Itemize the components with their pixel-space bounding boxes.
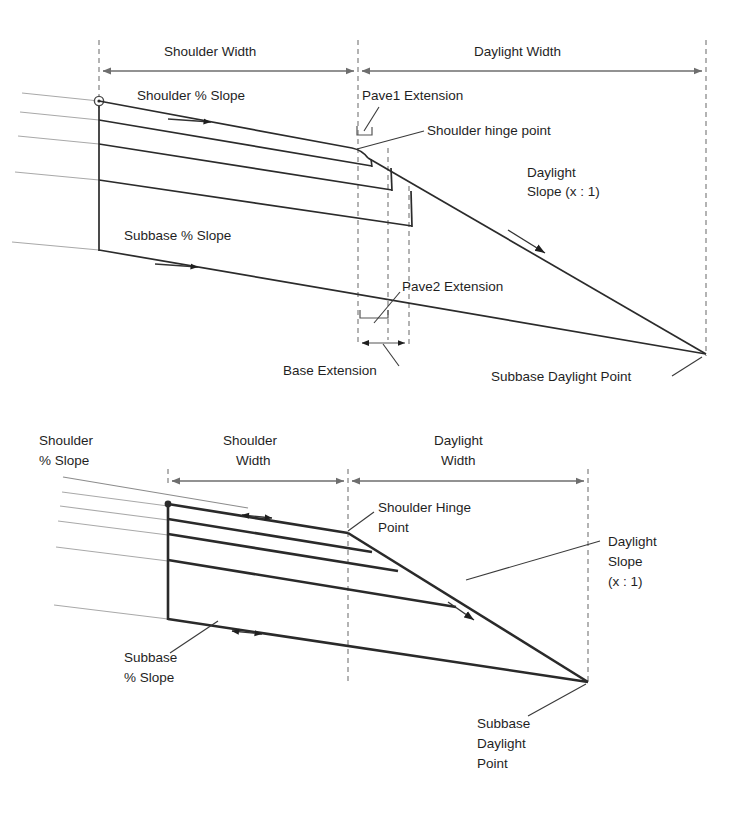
top-ghost-extension-lines: [12, 93, 99, 250]
bottom-label-daylight-slope-line2: Slope: [608, 554, 643, 569]
surface-line: [99, 101, 368, 158]
label-daylight-slope-line2: Slope (x : 1): [527, 184, 600, 199]
label-subbase-pct-slope: Subbase % Slope: [124, 228, 231, 243]
base-bottom-line: [99, 180, 412, 226]
bottom-label-daylight-width-line1: Daylight: [434, 433, 483, 448]
bottom-label-subbase-daylight-point-line1: Subbase: [477, 716, 530, 731]
bottom-daylight-slope-leader: [466, 541, 600, 580]
bottom-ghost-line-base: [56, 547, 168, 561]
top-diagram: Shoulder Width Daylight Width Shoulder %…: [12, 40, 706, 384]
label-daylight-slope-line1: Daylight: [527, 165, 576, 180]
ghost-line-pave1: [20, 112, 99, 120]
bottom-label-subbase-daylight-point-line3: Point: [477, 756, 508, 771]
bottom-diagram: Shoulder % Slope Shoulder Width Daylight…: [39, 433, 657, 771]
figure-root: Shoulder Width Daylight Width Shoulder %…: [0, 0, 741, 816]
bottom-label-shoulder-hinge-point-line2: Point: [378, 520, 409, 535]
bottom-label-shoulder-width-line1: Shoulder: [223, 433, 278, 448]
label-shoulder-pct-slope: Shoulder % Slope: [137, 88, 245, 103]
label-shoulder-width: Shoulder Width: [164, 44, 256, 59]
base-extension-leader: [383, 344, 399, 366]
bottom-ghost-line-subbase: [54, 605, 168, 619]
bottom-label-shoulder-pct-slope-line1: Shoulder: [39, 433, 94, 448]
bottom-surface-line: [168, 504, 348, 533]
top-extension-steps: [371, 159, 412, 227]
ghost-line-subbase: [12, 242, 99, 250]
ghost-line-surface: [22, 93, 99, 101]
bottom-label-shoulder-pct-slope-line2: % Slope: [39, 453, 89, 468]
bottom-label-daylight-slope-line3: (x : 1): [608, 574, 643, 589]
bottom-ghost-line-surface: [62, 492, 168, 506]
bottom-subbase-daylight-point-leader: [528, 684, 586, 716]
bottom-ghost-line-pave1: [60, 506, 168, 520]
bottom-ghost-line-pave2: [58, 521, 168, 535]
base-extension-riser: [411, 191, 412, 227]
shoulder-hinge-point-leader: [357, 131, 424, 149]
cross-section-diagram: Shoulder Width Daylight Width Shoulder %…: [0, 0, 741, 816]
ghost-line-pave2: [18, 136, 99, 144]
label-shoulder-hinge-point: Shoulder hinge point: [427, 123, 551, 138]
bottom-label-daylight-width-line2: Width: [441, 453, 476, 468]
bottom-label-shoulder-hinge-point-line1: Shoulder Hinge: [378, 500, 471, 515]
label-pave2-extension: Pave2 Extension: [402, 279, 503, 294]
bottom-label-subbase-daylight-point-line2: Daylight: [477, 736, 526, 751]
pave2-bottom-line: [99, 144, 392, 190]
label-daylight-width: Daylight Width: [474, 44, 561, 59]
bottom-base-line: [168, 560, 456, 607]
subbase-daylight-point-leader: [672, 357, 702, 376]
bottom-label-shoulder-width-line2: Width: [236, 453, 271, 468]
bottom-label-subbase-pct-slope-line2: % Slope: [124, 670, 174, 685]
label-base-extension: Base Extension: [283, 363, 377, 378]
label-subbase-daylight-point: Subbase Daylight Point: [491, 369, 632, 384]
bottom-subbase-line: [168, 619, 588, 682]
bottom-hinge-point-leader: [348, 512, 374, 531]
bottom-pave1-line: [168, 519, 372, 552]
bottom-subbase-pct-slope-leader: [170, 621, 218, 653]
ghost-line-base: [15, 172, 99, 180]
bottom-daylight-slope-arrow: [448, 602, 474, 620]
bottom-label-daylight-slope-line1: Daylight: [608, 534, 657, 549]
bottom-label-subbase-pct-slope-line1: Subbase: [124, 650, 177, 665]
label-pave1-extension: Pave1 Extension: [362, 88, 463, 103]
bottom-ghost-extension-lines: [54, 492, 168, 619]
